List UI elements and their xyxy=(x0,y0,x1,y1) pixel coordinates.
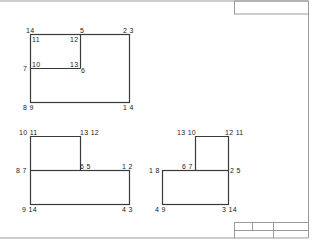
vertex-label: 10 11 xyxy=(19,129,38,136)
vertex-label: 1 8 xyxy=(149,167,160,174)
vertex-label: 13 10 xyxy=(177,129,196,136)
vertex-label: 12 11 xyxy=(225,129,244,136)
vertex-label: 8 9 xyxy=(23,104,34,111)
vertex-label: 4 9 xyxy=(155,206,166,213)
figure-top-left xyxy=(31,35,130,103)
vertex-label: 1 4 xyxy=(123,104,134,111)
vertex-label: 2 3 xyxy=(123,27,134,34)
vertex-label: 6 5 xyxy=(80,163,91,170)
vertex-label: 1 2 xyxy=(122,163,133,170)
vertex-label: 4 3 xyxy=(122,206,133,213)
vertex-label: 13 12 xyxy=(80,129,99,136)
vertex-label: 12 xyxy=(70,36,78,43)
vertex-label: 8 7 xyxy=(16,167,27,174)
title-block xyxy=(235,223,309,239)
vertex-label: 11 xyxy=(32,36,40,43)
header-box xyxy=(235,1,309,14)
vertex-label: 13 xyxy=(70,61,78,68)
sheet-border xyxy=(0,1,309,238)
vertex-label: 10 xyxy=(32,61,40,68)
vertex-label: 3 14 xyxy=(222,206,237,213)
vertex-label: 14 xyxy=(26,27,34,34)
vertex-label: 5 xyxy=(80,27,84,34)
vertex-label: 6 7 xyxy=(182,163,193,170)
vertex-label: 7 xyxy=(23,65,27,72)
vertex-label: 2 5 xyxy=(230,167,241,174)
figure-bottom-left xyxy=(31,137,130,205)
figure-bottom-right xyxy=(163,137,229,205)
vertex-label: 6 xyxy=(81,67,85,74)
vertex-label: 9 14 xyxy=(22,206,37,213)
